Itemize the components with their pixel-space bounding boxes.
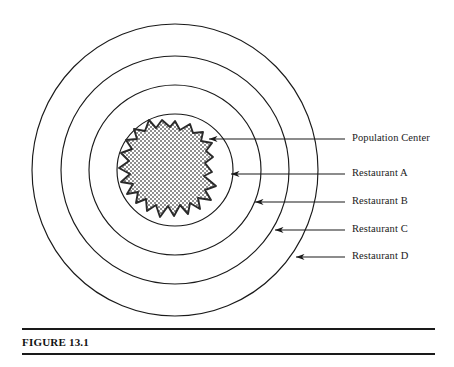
legend-label-restaurant-a: Restaurant A <box>352 167 408 178</box>
legend-label-restaurant-c: Restaurant C <box>352 223 408 234</box>
figure-caption-block: FIGURE 13.1 <box>22 328 435 355</box>
legend-label-restaurant-b: Restaurant B <box>352 195 408 206</box>
caption-rule-bottom <box>22 353 435 356</box>
legend-label-restaurant-d: Restaurant D <box>352 250 408 261</box>
legend-label-population-center: Population Center <box>352 132 430 143</box>
leader-lines <box>209 139 345 257</box>
figure-page: Population Center Restaurant A Restauran… <box>0 0 454 367</box>
figure-caption-text: FIGURE 13.1 <box>22 330 435 353</box>
population-polygon <box>119 120 216 217</box>
concentric-rings-diagram <box>0 0 454 367</box>
